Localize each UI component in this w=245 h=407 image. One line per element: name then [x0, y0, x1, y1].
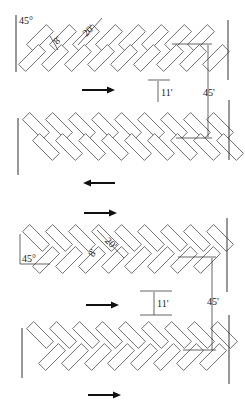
parking-stall — [148, 134, 175, 161]
parking-stall — [125, 134, 152, 161]
parking-stall — [217, 134, 244, 161]
parking-stall — [46, 225, 73, 252]
parking-stall — [171, 134, 198, 161]
parking-stall — [194, 247, 221, 274]
parking-stall — [207, 225, 234, 252]
parking-stall — [115, 113, 142, 140]
parking-stall — [194, 134, 221, 161]
parking-stall — [23, 225, 50, 252]
svg-text:45°: 45° — [22, 253, 36, 264]
parking-stall — [142, 322, 169, 349]
parking-stall — [115, 225, 142, 252]
flow-arrow-4 — [86, 302, 119, 309]
parking-stall — [171, 247, 198, 274]
flow-arrow-2 — [83, 180, 115, 187]
angle-label-top: 45° — [19, 15, 33, 26]
aisle-dim-bottom: 11' — [140, 291, 172, 315]
parking-stall — [184, 225, 211, 252]
parking-stall — [203, 45, 230, 72]
parking-stall — [188, 322, 215, 349]
parking-stall — [96, 322, 123, 349]
parking-stall — [211, 322, 238, 349]
parking-stall — [165, 322, 192, 349]
parking-stall — [56, 134, 83, 161]
parking-stall — [125, 247, 152, 274]
parking-stall — [102, 247, 129, 274]
parking-stall — [161, 113, 188, 140]
parking-stall — [73, 322, 100, 349]
parking-stall — [138, 225, 165, 252]
svg-text:11': 11' — [161, 87, 173, 98]
parking-stall — [69, 225, 96, 252]
parking-stall — [56, 247, 83, 274]
svg-text:11': 11' — [157, 298, 169, 309]
parking-stall — [23, 113, 50, 140]
herringbone-parking-diagram: 45° 8' 20' 11' 45' 45° 8' 20' 11' — [0, 0, 245, 407]
parking-stall — [131, 344, 158, 371]
flow-arrow-3 — [84, 210, 117, 217]
flow-arrow-5 — [88, 392, 121, 399]
parking-stall — [108, 344, 135, 371]
parking-stall — [92, 113, 119, 140]
parking-stalls — [19, 25, 244, 371]
parking-stall — [177, 344, 204, 371]
parking-stall — [69, 113, 96, 140]
parking-stall — [119, 322, 146, 349]
parking-stall — [50, 322, 77, 349]
parking-stall — [79, 134, 106, 161]
parking-stall — [148, 247, 175, 274]
parking-stall — [102, 134, 129, 161]
parking-stall — [33, 247, 60, 274]
parking-stall — [46, 113, 73, 140]
svg-text:45': 45' — [207, 296, 219, 307]
parking-stall — [27, 322, 54, 349]
parking-stall — [161, 225, 188, 252]
flow-arrow-1 — [82, 87, 115, 94]
parking-stall — [85, 344, 112, 371]
svg-text:45': 45' — [203, 87, 215, 98]
parking-stall — [200, 344, 227, 371]
parking-stall — [62, 344, 89, 371]
parking-stall — [33, 134, 60, 161]
parking-stall — [138, 113, 165, 140]
parking-stall — [154, 344, 181, 371]
aisle-dim-top: 11' — [148, 80, 173, 102]
parking-stall — [184, 113, 211, 140]
parking-stall — [39, 344, 66, 371]
